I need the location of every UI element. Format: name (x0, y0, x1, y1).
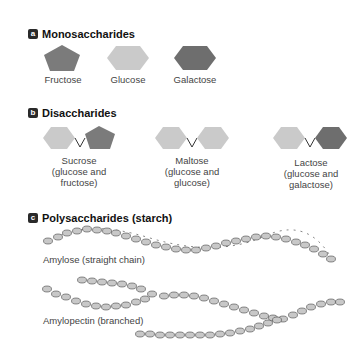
label-fructose: Fructose (40, 74, 86, 85)
label-sucrose-line3: fructose) (44, 177, 114, 188)
label-lactose: Lactose (glucose and galactose) (274, 157, 348, 190)
label-galactose: Galactose (168, 74, 222, 85)
label-glucose: Glucose (104, 74, 152, 85)
label-lactose-line3: galactose) (274, 179, 348, 190)
label-amylopectin: Amylopectin (branched) (43, 315, 143, 326)
label-maltose-line2: (glucose and (157, 166, 227, 177)
glucose-shape (107, 46, 149, 70)
label-sucrose-name: Sucrose (44, 155, 114, 166)
fructose-shape (44, 45, 80, 71)
sucrose-shape (43, 126, 115, 149)
label-lactose-line2: (glucose and (274, 168, 348, 179)
label-amylose: Amylose (straight chain) (43, 254, 145, 265)
galactose-shape (174, 46, 216, 70)
label-sucrose: Sucrose (glucose and fructose) (44, 155, 114, 188)
label-lactose-name: Lactose (274, 157, 348, 168)
label-maltose-name: Maltose (157, 155, 227, 166)
maltose-shape (155, 127, 229, 149)
lactose-shape (273, 127, 347, 149)
amylopectin-chain (43, 277, 345, 338)
label-sucrose-line2: (glucose and (44, 166, 114, 177)
label-maltose-line3: glucose) (157, 177, 227, 188)
label-maltose: Maltose (glucose and glucose) (157, 155, 227, 188)
